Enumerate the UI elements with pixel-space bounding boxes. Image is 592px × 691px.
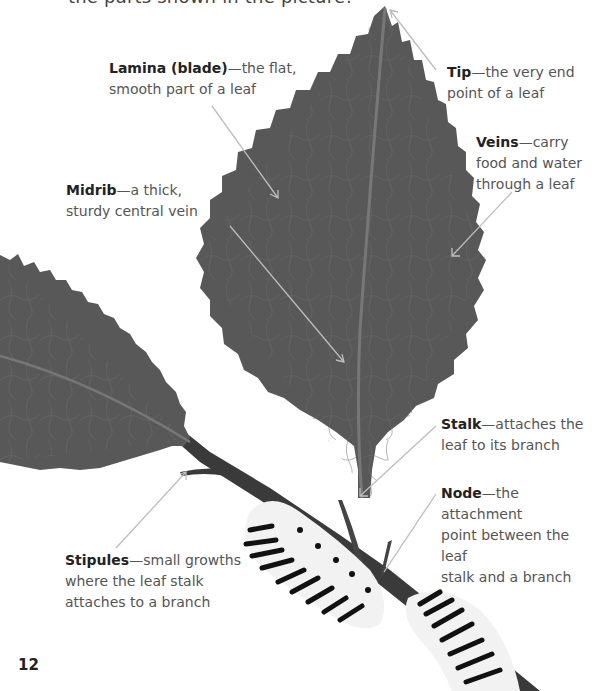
page-number: 12 <box>18 656 39 674</box>
label-desc: attaches to a branch <box>65 594 210 610</box>
label-desc: point of a leaf <box>447 85 544 101</box>
label-term: Stalk <box>441 416 481 432</box>
label-term: Node <box>441 485 482 501</box>
label-desc: —a thick, <box>116 182 182 198</box>
caterpillar-2 <box>406 591 520 691</box>
label-term: Midrib <box>66 182 116 198</box>
label-desc: food and water <box>476 155 582 171</box>
label-term: Lamina (blade) <box>109 60 228 76</box>
label-veins: Veins—carry food and water through a lea… <box>476 132 592 195</box>
label-term: Veins <box>476 134 519 150</box>
label-node: Node—the attachment point between the le… <box>441 483 592 588</box>
label-desc: —the flat, <box>228 60 297 76</box>
label-desc: leaf to its branch <box>441 437 560 453</box>
label-desc: —the very end <box>471 64 574 80</box>
label-stalk: Stalk—attaches the leaf to its branch <box>441 414 592 456</box>
label-desc: through a leaf <box>476 176 575 192</box>
label-desc: smooth part of a leaf <box>109 81 256 97</box>
label-desc: point between the leaf <box>441 527 569 564</box>
label-desc: —attaches the <box>481 416 583 432</box>
label-desc: —small growths <box>129 552 241 568</box>
label-term: Tip <box>447 64 471 80</box>
label-desc: where the leaf stalk <box>65 573 204 589</box>
intro-text: the parts shown in the picture! <box>68 0 353 7</box>
label-tip: Tip—the very end point of a leaf <box>447 62 592 104</box>
label-desc: —carry <box>519 134 569 150</box>
label-lamina: Lamina (blade)—the flat, smooth part of … <box>109 58 329 100</box>
label-stipules: Stipules—small growths where the leaf st… <box>65 550 255 613</box>
label-desc: sturdy central vein <box>66 203 198 219</box>
label-desc: stalk and a branch <box>441 569 571 585</box>
label-term: Stipules <box>65 552 129 568</box>
label-midrib: Midrib—a thick, sturdy central vein <box>66 180 236 222</box>
